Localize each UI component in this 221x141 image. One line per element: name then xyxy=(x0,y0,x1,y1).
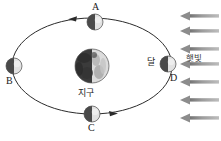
moon-C-label: C xyxy=(88,123,95,133)
moon-name-label: 달 xyxy=(147,58,155,67)
moon-A-body xyxy=(87,14,103,30)
earth-label: 지구 xyxy=(78,89,94,98)
sunlight-arrow-5-icon xyxy=(180,77,219,86)
moon-phase-diagram: A B C D 지구 달 햇빛 xyxy=(0,0,221,141)
moon-D-label: D xyxy=(170,73,177,83)
orbit-arrow-top-icon xyxy=(68,16,77,21)
earth-body xyxy=(75,49,109,83)
sunlight-arrow-1-icon xyxy=(180,11,219,20)
sunlight-arrow-2-icon xyxy=(180,26,219,35)
moon-B-body xyxy=(6,58,22,74)
diagram-canvas xyxy=(0,0,221,141)
sunlight-arrow-6-icon xyxy=(180,95,219,104)
moon-B-label: B xyxy=(6,76,13,86)
sunlight-arrow-7-icon xyxy=(180,113,219,122)
moon-D-body xyxy=(160,56,176,72)
moon-C-body xyxy=(84,106,100,122)
sunlight-label: 햇빛 xyxy=(186,54,201,63)
moon-A-label: A xyxy=(92,2,99,12)
